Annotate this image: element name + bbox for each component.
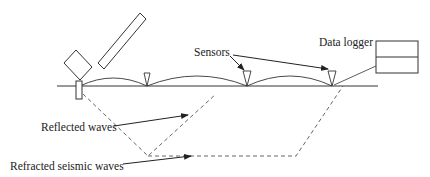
- surface-wave: [80, 76, 332, 86]
- hammer-icon: [64, 13, 146, 80]
- data-logger-icon: [376, 41, 418, 73]
- sensor-icon: [144, 73, 150, 86]
- logger-cable: [334, 66, 376, 85]
- sensors-arrow-2: [233, 55, 328, 69]
- sensor-icon: [243, 71, 251, 86]
- seismic-diagram: [0, 0, 430, 177]
- sensor-icon: [328, 71, 336, 86]
- reflected-waves-label: Reflected waves: [41, 122, 117, 134]
- refracted-arrow: [123, 156, 191, 164]
- refracted-waves-label: Refracted seismic waves: [10, 161, 124, 173]
- sensors-label: Sensors: [194, 47, 230, 59]
- sensors-arrow-1: [230, 56, 244, 70]
- strike-plate: [76, 81, 82, 99]
- data-logger-label: Data logger: [319, 37, 373, 49]
- reflected-arrow: [114, 115, 188, 126]
- refracted-wave-path: [148, 86, 343, 156]
